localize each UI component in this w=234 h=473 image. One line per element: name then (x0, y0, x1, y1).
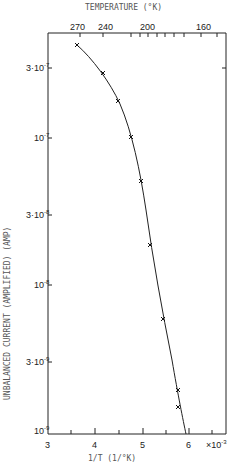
x-axis-title: 1/T (1/°K) (88, 454, 136, 463)
x-tick-6: 6 (186, 440, 191, 450)
top-tick-270: 270 (70, 22, 85, 32)
x-tick-3: 3 (45, 440, 50, 450)
x-tick-5: 5 (140, 440, 145, 450)
y-tick-3e-8: 3·10-8 (26, 209, 50, 220)
fit-curve (77, 45, 186, 434)
left-ticks (48, 68, 226, 362)
data-point (176, 405, 180, 409)
y-axis-title: UNBALANCED CURRENT (AMPLIFIED) (AMP) (3, 227, 12, 400)
bottom-ticks (71, 428, 212, 434)
x-multiplier: ×10-3 (206, 439, 227, 450)
top-tick-160: 160 (196, 22, 211, 32)
y-tick-3e-7: 3·10-7 (26, 62, 50, 73)
top-tick-200: 200 (140, 22, 155, 32)
top-ticks (80, 33, 217, 37)
y-tick-1e-9: 10-9 (34, 425, 50, 436)
x-tick-4: 4 (92, 440, 97, 450)
data-point (75, 43, 79, 47)
plot-frame (48, 33, 226, 434)
y-tick-3e-9: 3·10-9 (26, 356, 50, 367)
chart: TEMPERATURE (°K) 270 240 200 160 (0, 0, 234, 473)
top-axis-title: TEMPERATURE (°K) (85, 3, 162, 12)
data-points (75, 43, 180, 409)
top-tick-240: 240 (98, 22, 113, 32)
